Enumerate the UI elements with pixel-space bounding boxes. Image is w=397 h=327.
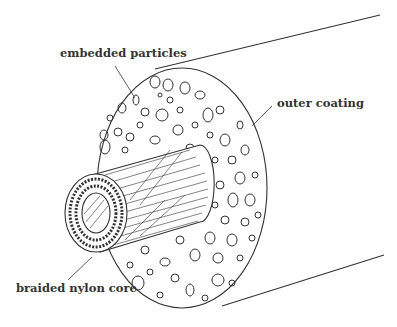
cable-top-edge bbox=[155, 15, 380, 69]
label-outer-coating: outer coating bbox=[277, 96, 364, 110]
leader-embedded-particles bbox=[115, 66, 135, 98]
leader-outer-coating bbox=[252, 106, 272, 126]
leader-braided-core bbox=[68, 257, 92, 280]
label-braided-nylon-core: braided nylon core bbox=[16, 281, 137, 295]
label-embedded-particles: embedded particles bbox=[60, 46, 187, 60]
